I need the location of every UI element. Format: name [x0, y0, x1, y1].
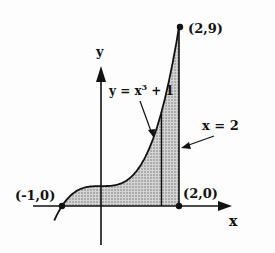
curve-equation-label: y = x3 + 1	[108, 82, 174, 98]
y-axis-label: y	[95, 44, 104, 59]
curve-equation-main: y = x	[108, 84, 142, 98]
point-2-0	[176, 203, 182, 209]
point-label-2-9: (2,9)	[188, 21, 223, 36]
diagram-svg: y x (2,9) (-1,0) (2,0) x = 2 y = x3 + 1	[0, 0, 275, 253]
point-neg1-0	[59, 203, 65, 209]
x-axis-label: x	[229, 213, 238, 229]
boundary-label-pointer	[186, 136, 214, 146]
boundary-label: x = 2	[202, 118, 239, 133]
curve-equation-tail: + 1	[147, 84, 174, 98]
y-axis-arrow-icon	[96, 66, 106, 82]
x-axis-arrow-icon	[218, 201, 232, 211]
point-2-9	[177, 24, 183, 30]
curve-pointer-arrowhead-icon	[148, 129, 155, 138]
curve-label-pointer	[140, 101, 152, 134]
boundary-pointer-arrowhead-icon	[181, 142, 191, 149]
point-label-2-0: (2,0)	[183, 186, 218, 201]
point-label-neg1-0: (-1,0)	[15, 188, 55, 203]
diagram-canvas: y x (2,9) (-1,0) (2,0) x = 2 y = x3 + 1	[0, 0, 275, 253]
